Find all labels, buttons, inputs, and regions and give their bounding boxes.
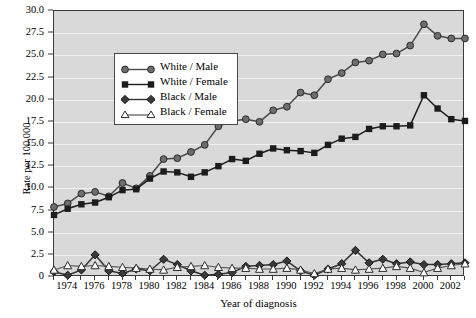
data-point — [297, 89, 304, 96]
data-point — [352, 134, 358, 140]
data-point — [366, 57, 373, 64]
x-tick-mark — [190, 276, 191, 280]
data-point — [462, 35, 469, 42]
data-point — [133, 186, 139, 192]
x-tick-label: 1980 — [138, 281, 159, 292]
y-tick-label: 7.5 — [31, 204, 44, 215]
y-tick-label: 5.0 — [31, 226, 44, 237]
data-point — [297, 148, 303, 154]
legend-item-black-male[interactable]: Black / Male — [121, 89, 228, 104]
chart-figure: Rate per 100,000 02.55.07.510.012.515.01… — [0, 0, 476, 318]
legend-label-white-male: White / Male — [160, 61, 218, 72]
data-point — [243, 158, 249, 164]
data-point — [256, 151, 262, 157]
y-tick-label: 2.5 — [31, 249, 44, 260]
x-tick-label: 1986 — [221, 281, 242, 292]
data-point — [325, 76, 332, 83]
data-point — [366, 126, 372, 132]
data-point — [448, 35, 455, 42]
legend-swatch-diamond-icon — [121, 91, 155, 102]
data-point — [270, 107, 277, 114]
x-tick-mark — [53, 276, 54, 280]
data-point — [229, 156, 235, 162]
data-point — [270, 145, 276, 151]
data-point — [65, 206, 71, 212]
data-point — [119, 180, 126, 187]
legend-swatch-triangle-icon — [121, 106, 155, 117]
x-tick-mark — [245, 276, 246, 280]
x-tick-label: 2002 — [440, 281, 461, 292]
x-tick-label: 1982 — [166, 281, 187, 292]
legend-item-white-female[interactable]: White / Female — [121, 74, 228, 89]
x-tick-label: 1978 — [111, 281, 132, 292]
data-point — [420, 260, 428, 268]
x-tick-mark — [354, 276, 355, 280]
data-point — [338, 70, 345, 77]
data-point — [325, 142, 331, 148]
data-point — [379, 51, 386, 58]
x-tick-label: 1988 — [248, 281, 269, 292]
data-point — [188, 174, 194, 180]
data-point — [434, 105, 440, 111]
legend-swatch-square-icon — [121, 76, 155, 87]
x-tick-label: 1976 — [84, 281, 105, 292]
y-axis: Rate per 100,000 02.55.07.510.012.515.01… — [0, 10, 53, 276]
data-point — [92, 199, 98, 205]
data-point — [147, 175, 153, 181]
data-point — [215, 163, 221, 169]
data-point — [380, 123, 386, 129]
data-point — [78, 190, 85, 197]
y-tick-label: 22.5 — [26, 71, 44, 82]
x-tick-mark — [409, 276, 410, 280]
legend-label-black-female: Black / Female — [160, 106, 227, 117]
x-tick-mark — [437, 276, 438, 280]
data-point — [339, 135, 345, 141]
y-tick-label: 0 — [39, 271, 44, 282]
x-axis-title: Year of diagnosis — [53, 297, 464, 309]
x-tick-mark — [327, 276, 328, 280]
data-point — [188, 149, 195, 156]
y-tick-label: 17.5 — [26, 116, 44, 127]
data-point — [393, 50, 400, 57]
legend-item-black-female[interactable]: Black / Female — [121, 104, 228, 119]
x-tick-mark — [300, 276, 301, 280]
data-point — [407, 122, 413, 128]
data-point — [202, 169, 208, 175]
legend-item-white-male[interactable]: White / Male — [121, 59, 228, 74]
data-point — [352, 59, 359, 66]
data-point — [119, 187, 125, 193]
x-tick-label: 1992 — [303, 281, 324, 292]
x-tick-mark — [217, 276, 218, 280]
x-tick-mark — [108, 276, 109, 280]
data-point — [92, 188, 99, 195]
data-point — [160, 168, 166, 174]
legend: White / Male White / Female — [114, 53, 238, 125]
data-point — [174, 155, 181, 162]
y-tick-label: 25.0 — [26, 49, 44, 60]
x-tick-mark — [464, 276, 465, 280]
series-black-male — [50, 246, 469, 279]
data-point — [256, 118, 263, 125]
data-point — [421, 21, 428, 28]
x-tick-label: 2000 — [412, 281, 433, 292]
legend-label-black-male: Black / Male — [160, 91, 217, 102]
series-layer — [54, 11, 465, 277]
legend-label-white-female: White / Female — [160, 76, 228, 87]
x-tick-label: 1974 — [56, 281, 77, 292]
x-tick-mark — [272, 276, 273, 280]
data-point — [51, 212, 57, 218]
x-tick-mark — [135, 276, 136, 280]
legend-swatch-circle-icon — [121, 61, 155, 72]
data-point — [201, 141, 208, 148]
x-tick-label: 1990 — [275, 281, 296, 292]
y-tick-label: 10.0 — [26, 182, 44, 193]
data-point — [434, 32, 441, 39]
y-tick-label: 20.0 — [26, 93, 44, 104]
x-tick-label: 1984 — [193, 281, 214, 292]
data-point — [284, 103, 291, 110]
data-point — [379, 255, 387, 263]
x-tick-mark — [80, 276, 81, 280]
y-tick-label: 12.5 — [26, 160, 44, 171]
data-point — [311, 92, 318, 99]
x-axis: 1974197619781980198219841986198819901992… — [53, 276, 464, 318]
